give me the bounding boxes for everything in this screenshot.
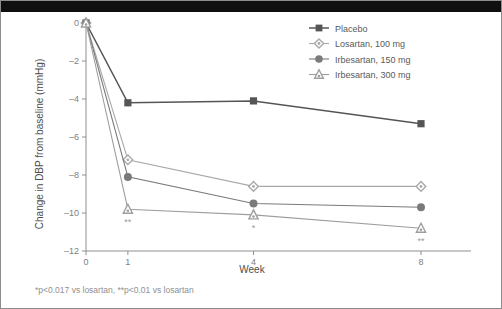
footnote: *p<0.017 vs losartan, **p<0.01 vs losart…: [35, 285, 194, 295]
y-axis-title: Change in DBP from baseline (mmHg): [34, 59, 45, 229]
x-axis: 0148: [83, 251, 471, 267]
marker-triangle-core: [420, 229, 423, 232]
y-tick-label: –6: [69, 132, 79, 142]
series-lines: [81, 18, 426, 232]
legend-item-placebo: Placebo: [309, 24, 368, 34]
marker-square: [316, 25, 323, 32]
marker-circle: [417, 203, 425, 211]
y-tick-label: –8: [69, 170, 79, 180]
x-tick-label: 8: [418, 257, 423, 267]
legend-label: Irbesartan, 150 mg: [335, 55, 411, 65]
marker-triangle-core: [318, 75, 321, 78]
marker-circle: [315, 55, 323, 63]
y-tick-label: –10: [64, 208, 79, 218]
marker-circle: [250, 200, 258, 208]
marker-triangle-core: [127, 210, 130, 213]
marker-diamond-core: [126, 158, 129, 161]
legend-item-irbesartan-300-mg: Irbesartan, 300 mg: [309, 70, 411, 80]
significance-marker: *: [252, 223, 256, 233]
x-tick-label: 0: [83, 257, 88, 267]
legend-label: Placebo: [335, 24, 368, 34]
marker-square: [417, 120, 424, 127]
significance-annotations: *****: [124, 217, 425, 246]
legend-label: Losartan, 100 mg: [335, 39, 405, 49]
y-axis: 0–2–4–6–8–10–12: [64, 18, 86, 256]
marker-diamond-core: [318, 42, 321, 45]
series-line: [86, 23, 421, 207]
marker-square: [124, 99, 131, 106]
significance-marker: **: [417, 236, 425, 246]
figure-panel: 0–2–4–6–8–10–12 0148 ***** PlaceboLosart…: [0, 0, 502, 309]
legend-item-losartan-100-mg: Losartan, 100 mg: [309, 39, 405, 49]
x-tick-label: 1: [125, 257, 130, 267]
y-tick-label: –2: [69, 56, 79, 66]
marker-square: [250, 97, 257, 104]
significance-marker: **: [124, 217, 132, 227]
legend-label: Irbesartan, 300 mg: [335, 70, 411, 80]
x-axis-title: Week: [239, 264, 265, 275]
marker-circle: [124, 173, 132, 181]
chart-canvas: 0–2–4–6–8–10–12 0148 ***** PlaceboLosart…: [1, 1, 502, 309]
chart-legend: PlaceboLosartan, 100 mgIrbesartan, 150 m…: [309, 24, 411, 81]
y-tick-label: –4: [69, 94, 79, 104]
y-tick-label: 0: [74, 18, 79, 28]
y-tick-label: –12: [64, 246, 79, 256]
marker-triangle-core: [252, 215, 255, 218]
marker-triangle-core: [85, 23, 88, 26]
legend-item-irbesartan-150-mg: Irbesartan, 150 mg: [309, 55, 411, 65]
marker-diamond-core: [420, 185, 423, 188]
marker-diamond-core: [252, 185, 255, 188]
